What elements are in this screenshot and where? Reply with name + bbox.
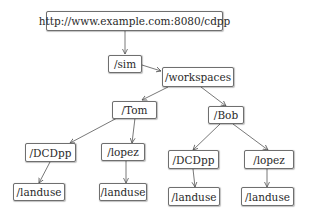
edge-tom-dcdpp <box>70 118 117 143</box>
edge-bob-dcdpp-landuse <box>193 169 195 187</box>
node-bob: /Bob <box>208 106 244 124</box>
node-tom: /Tom <box>112 101 157 119</box>
edge-workspaces-bob <box>201 87 226 106</box>
url-tree-diagram: http://www.example.com:8080/cdpp /sim /w… <box>0 0 310 217</box>
node-bob-lopez-landuse: /landuse <box>241 187 294 206</box>
node-tom-dcdpp: /DCDpp <box>25 143 76 162</box>
node-bob-dcdpp: /DCDpp <box>168 150 219 169</box>
node-tom-dcdpp-landuse: /landuse <box>13 183 65 201</box>
node-bob-dcdpp-landuse: /landuse <box>168 187 220 206</box>
node-tom-lopez-landuse: /landuse <box>99 183 147 201</box>
node-sim: /sim <box>108 55 142 73</box>
node-root-url: http://www.example.com:8080/cdpp <box>46 11 223 31</box>
node-tom-lopez: /lopez <box>101 143 145 161</box>
node-bob-lopez: /lopez <box>244 150 294 169</box>
edge-tom-dcdpp-landuse <box>39 162 50 183</box>
edge-bob-lopez <box>233 124 268 150</box>
node-workspaces: /workspaces <box>162 67 234 87</box>
edge-workspaces-tom <box>142 87 168 100</box>
edge-sim-workspaces <box>142 65 161 71</box>
edge-bob-dcdpp <box>193 124 220 150</box>
edge-tom-lopez <box>132 118 135 143</box>
